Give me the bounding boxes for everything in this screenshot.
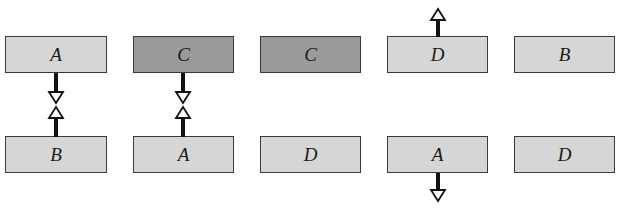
arrow-down-icon (176, 73, 190, 103)
arrow-up-icon (176, 107, 190, 137)
arrows-layer (0, 0, 620, 213)
arrow-up-icon (431, 9, 445, 37)
arrow-down-icon (49, 73, 63, 103)
arrow-up-icon (49, 107, 63, 137)
arrow-down-icon (431, 173, 445, 201)
